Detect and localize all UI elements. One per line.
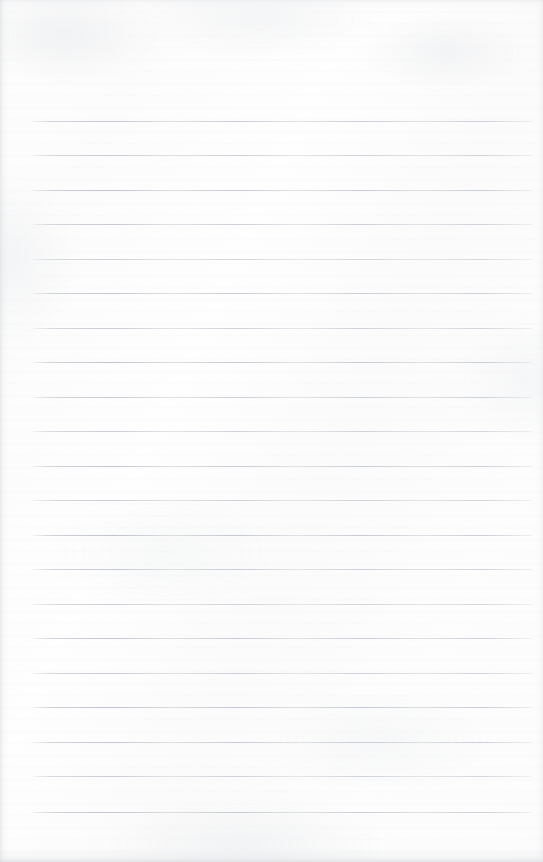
paper-edge-shadow [0, 0, 543, 862]
scanned-page [0, 0, 543, 862]
